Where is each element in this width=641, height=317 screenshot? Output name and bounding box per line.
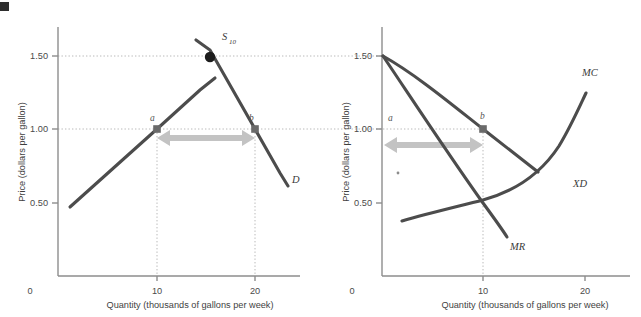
curve-label-mr: MR xyxy=(509,241,526,252)
right-y-axis-title: Price (dollars per gallon) xyxy=(341,102,351,202)
point-label-b: b xyxy=(249,113,254,123)
marginal-cost-curve-MC xyxy=(402,93,586,221)
point-label-a-right: a xyxy=(388,113,393,123)
right-axes xyxy=(376,27,630,281)
curve-label-mc: MC xyxy=(581,67,599,78)
right-panel-chart: MC XD MR a b 1.50 1.00 0.50 0 10 20 Pric… xyxy=(320,0,641,317)
right-x-axis-title: Quantity (thousands of gallons per week) xyxy=(442,300,609,310)
point-b-marker-right xyxy=(479,125,487,133)
left-shortage-arrow xyxy=(157,130,255,146)
double-headed-arrow-shape-right xyxy=(384,137,483,153)
right-xlabel-20: 20 xyxy=(580,286,590,296)
figure-root: S 10 D a b 1.50 1.00 0.50 0 10 20 Price … xyxy=(0,0,641,317)
left-y-axis-title: Price (dollars per gallon) xyxy=(17,102,27,202)
right-output-gap-arrow xyxy=(384,137,483,153)
point-b-marker xyxy=(251,125,259,133)
supply-curve-S10 xyxy=(70,78,215,207)
point-a-marker xyxy=(153,125,161,133)
left-xlabel-10: 10 xyxy=(152,286,162,296)
right-ylabel-150: 1.50 xyxy=(354,51,372,61)
left-ylabel-050: 0.50 xyxy=(30,198,48,208)
curve-label-supply-subscript: 10 xyxy=(229,38,237,46)
curve-label-xd: XD xyxy=(572,178,587,189)
left-x-axis-title: Quantity (thousands of gallons per week) xyxy=(107,300,274,310)
right-xlabel-10: 10 xyxy=(478,286,488,296)
right-ylabel-050: 0.50 xyxy=(354,198,372,208)
left-xlabel-0: 0 xyxy=(27,286,32,296)
left-guide-lines xyxy=(58,56,320,275)
left-ylabel-100: 1.00 xyxy=(30,124,48,134)
right-xlabel-0: 0 xyxy=(349,286,354,296)
double-headed-arrow-shape xyxy=(157,130,255,146)
point-label-a: a xyxy=(150,113,155,123)
print-speck xyxy=(397,172,400,175)
demand-curve-XD xyxy=(383,56,538,172)
curve-label-demand: D xyxy=(291,174,300,185)
point-label-b-right: b xyxy=(480,111,485,121)
left-ylabel-150: 1.50 xyxy=(30,51,48,61)
right-ylabel-100: 1.00 xyxy=(354,124,372,134)
left-panel-chart: S 10 D a b 1.50 1.00 0.50 0 10 20 Price … xyxy=(0,0,320,317)
left-axes xyxy=(52,27,300,281)
equilibrium-point xyxy=(205,52,215,62)
curve-label-supply: S xyxy=(222,31,228,42)
left-xlabel-20: 20 xyxy=(250,286,260,296)
